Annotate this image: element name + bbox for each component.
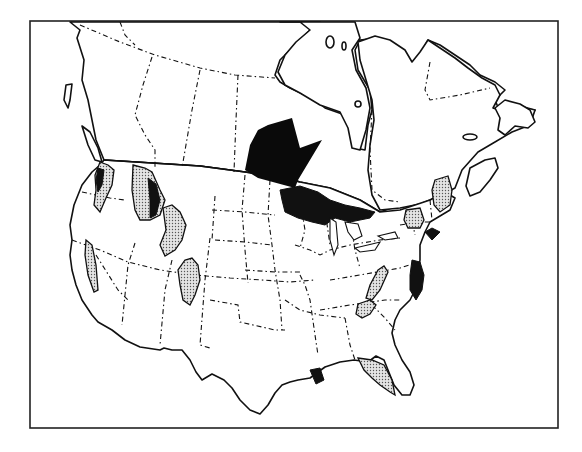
north-america-map <box>0 0 582 452</box>
island-1 <box>326 36 334 48</box>
map-figure <box>0 0 582 452</box>
mississippi-delta-solid <box>310 368 324 384</box>
new-england-coast-solid <box>425 228 440 240</box>
island-2 <box>342 42 346 50</box>
new-york-stipple <box>404 208 424 228</box>
chesapeake-solid <box>410 260 424 300</box>
queen-charlotte-islands <box>64 84 72 108</box>
anticosti-island <box>463 134 477 140</box>
island-3 <box>355 101 361 107</box>
nova-scotia <box>466 158 498 196</box>
